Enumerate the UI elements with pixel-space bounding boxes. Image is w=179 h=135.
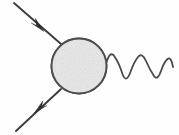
feynman-diagram-canvas — [0, 0, 179, 135]
feynman-diagram-figure: Feynman diagram: fermion-photon vertex w… — [0, 0, 179, 135]
